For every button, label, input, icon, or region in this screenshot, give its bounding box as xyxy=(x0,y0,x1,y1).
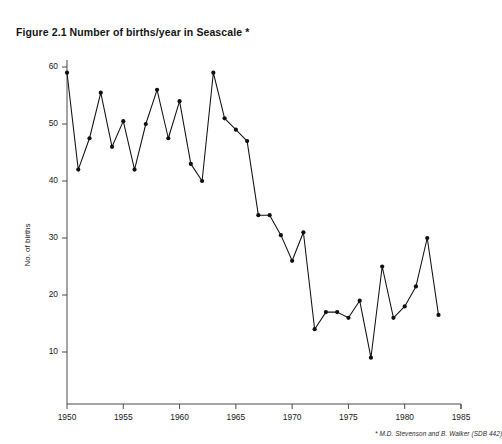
y-axis: 102030405060 xyxy=(49,60,67,404)
x-tick-1970: 1970 xyxy=(283,404,302,422)
x-tick-label: 1965 xyxy=(227,412,246,422)
x-tick-label: 1970 xyxy=(283,412,302,422)
data-point xyxy=(110,145,114,149)
x-tick-1975: 1975 xyxy=(339,404,358,422)
y-tick-50: 50 xyxy=(49,118,67,128)
data-point xyxy=(414,284,418,288)
x-tick-1980: 1980 xyxy=(395,404,414,422)
data-point xyxy=(335,310,339,314)
x-tick-1955: 1955 xyxy=(114,404,133,422)
x-tick-1950: 1950 xyxy=(58,404,77,422)
data-point xyxy=(144,122,148,126)
data-point xyxy=(256,213,260,217)
data-point xyxy=(436,313,440,317)
data-point xyxy=(234,128,238,132)
x-tick-label: 1950 xyxy=(58,412,77,422)
data-point xyxy=(369,356,373,360)
y-tick-label: 30 xyxy=(49,232,59,242)
data-point xyxy=(358,299,362,303)
y-tick-10: 10 xyxy=(49,346,67,356)
x-tick-label: 1980 xyxy=(395,412,414,422)
data-point xyxy=(189,162,193,166)
data-point xyxy=(76,168,80,172)
data-point xyxy=(200,179,204,183)
data-point xyxy=(391,316,395,320)
data-point xyxy=(65,71,69,75)
y-tick-label: 60 xyxy=(49,61,59,71)
data-point xyxy=(403,304,407,308)
series-line-no-of-births xyxy=(67,73,438,358)
data-point xyxy=(121,119,125,123)
data-point xyxy=(211,71,215,75)
data-point xyxy=(290,259,294,263)
y-tick-label: 10 xyxy=(49,346,59,356)
y-tick-label: 40 xyxy=(49,175,59,185)
data-point xyxy=(155,88,159,92)
x-tick-label: 1960 xyxy=(170,412,189,422)
data-point xyxy=(268,213,272,217)
data-point xyxy=(279,233,283,237)
data-point xyxy=(132,168,136,172)
y-tick-label: 20 xyxy=(49,289,59,299)
y-tick-60: 60 xyxy=(49,61,67,71)
y-axis-title: No. of births xyxy=(23,223,32,266)
data-point xyxy=(313,327,317,331)
data-point xyxy=(166,136,170,140)
x-tick-1965: 1965 xyxy=(227,404,246,422)
data-point xyxy=(99,91,103,95)
y-tick-40: 40 xyxy=(49,175,67,185)
figure-footnote: * M.D. Stevenson and B. Walker (SDB 442) xyxy=(375,430,502,437)
data-point xyxy=(177,99,181,103)
y-tick-30: 30 xyxy=(49,232,67,242)
x-axis: 19501955196019651970197519801985 xyxy=(58,404,471,422)
data-point xyxy=(223,116,227,120)
data-point xyxy=(425,236,429,240)
data-point-markers xyxy=(65,71,441,360)
data-point xyxy=(346,316,350,320)
x-tick-label: 1955 xyxy=(114,412,133,422)
y-tick-label: 50 xyxy=(49,118,59,128)
data-point xyxy=(301,230,305,234)
x-tick-1960: 1960 xyxy=(170,404,189,422)
y-tick-20: 20 xyxy=(49,289,67,299)
x-tick-label: 1975 xyxy=(339,412,358,422)
data-point xyxy=(324,310,328,314)
data-point xyxy=(380,264,384,268)
x-tick-label: 1985 xyxy=(452,412,471,422)
data-point xyxy=(87,136,91,140)
data-point xyxy=(245,139,249,143)
